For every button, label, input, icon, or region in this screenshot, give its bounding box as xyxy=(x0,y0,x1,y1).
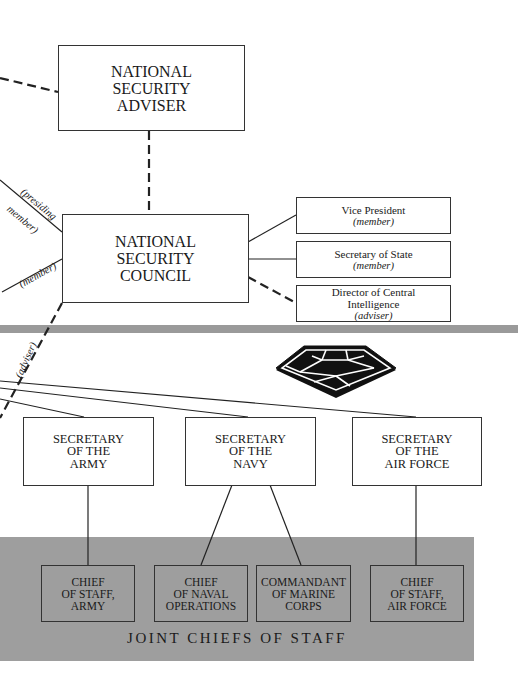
secretary-army-box: SECRETARY OF THE ARMY xyxy=(23,417,154,486)
nsa-line-3: ADVISER xyxy=(117,97,186,114)
cmc-line-3: CORPS xyxy=(285,600,321,612)
secretary-of-state-box: Secretary of State (member) xyxy=(296,241,451,278)
csa-line-2: OF STAFF, xyxy=(61,588,114,600)
nsc-line-2: SECURITY xyxy=(116,250,194,267)
csa-line-3: ARMY xyxy=(71,600,106,612)
director-central-intelligence-box: Director of Central Intelligence (advise… xyxy=(296,285,451,322)
national-security-adviser-box: NATIONAL SECURITY ADVISER xyxy=(58,45,245,131)
pentagon-building-icon xyxy=(274,344,398,400)
sos-title: Secretary of State xyxy=(334,248,412,260)
csa-line-1: CHIEF xyxy=(71,576,104,588)
sec-af-line-3: AIR FORCE xyxy=(385,458,450,471)
csaf-line-3: AIR FORCE xyxy=(387,600,447,612)
sec-af-line-2: OF THE xyxy=(395,445,438,458)
sos-role: (member) xyxy=(353,260,394,271)
dci-title-line-1: Director of Central xyxy=(332,286,416,298)
joint-chiefs-title: JOINT CHIEFS OF STAFF xyxy=(0,630,474,647)
sec-navy-line-3: NAVY xyxy=(233,458,268,471)
nsa-line-1: NATIONAL xyxy=(111,63,192,80)
nsc-line-3: COUNCIL xyxy=(120,267,191,284)
nsa-line-2: SECURITY xyxy=(112,80,190,97)
cno-line-1: CHIEF xyxy=(184,576,217,588)
vp-title: Vice President xyxy=(342,204,406,216)
dci-role: (adviser) xyxy=(355,310,393,321)
vice-president-box: Vice President (member) xyxy=(296,197,451,234)
commandant-marine-corps-box: COMMANDANT OF MARINE CORPS xyxy=(256,565,351,622)
dci-title-line-2: Intelligence xyxy=(348,298,400,310)
cno-line-2: OF NAVAL xyxy=(174,588,229,600)
sec-army-line-3: ARMY xyxy=(70,458,108,471)
chief-naval-operations-box: CHIEF OF NAVAL OPERATIONS xyxy=(154,565,248,622)
vp-role: (member) xyxy=(353,216,394,227)
secretary-navy-box: SECRETARY OF THE NAVY xyxy=(185,417,316,486)
nsc-line-1: NATIONAL xyxy=(115,233,196,250)
cmc-line-2: OF MARINE xyxy=(272,588,335,600)
sec-navy-line-2: OF THE xyxy=(229,445,272,458)
csaf-line-2: OF STAFF, xyxy=(390,588,443,600)
cno-line-3: OPERATIONS xyxy=(166,600,236,612)
chief-of-staff-army-box: CHIEF OF STAFF, ARMY xyxy=(41,565,135,622)
cmc-line-1: COMMANDANT xyxy=(261,576,346,588)
national-security-council-box: NATIONAL SECURITY COUNCIL xyxy=(62,214,249,303)
secretary-air-force-box: SECRETARY OF THE AIR FORCE xyxy=(352,417,482,486)
csaf-line-1: CHIEF xyxy=(400,576,433,588)
chief-of-staff-air-force-box: CHIEF OF STAFF, AIR FORCE xyxy=(370,565,464,622)
sec-army-line-2: OF THE xyxy=(67,445,110,458)
